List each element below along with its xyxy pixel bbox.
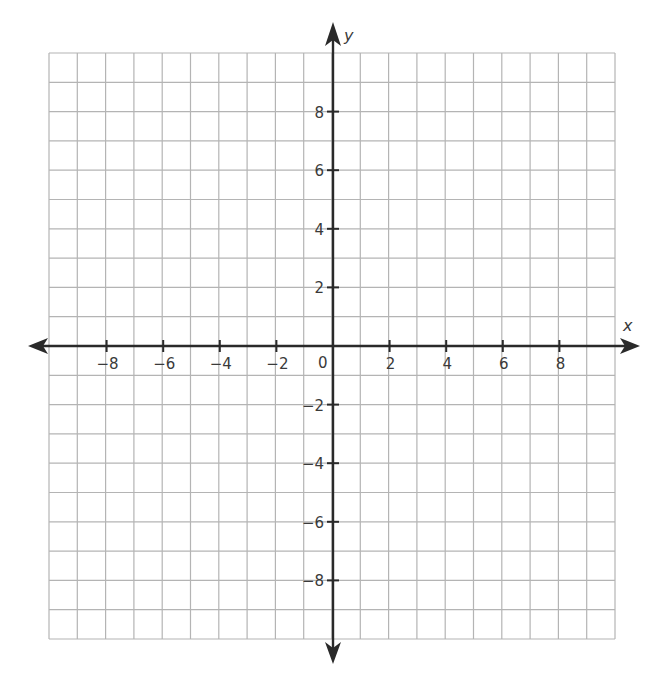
origin-label: 0 [318, 354, 328, 372]
x-tick-label: 8 [556, 355, 566, 373]
x-tick-label: 2 [386, 355, 396, 373]
y-tick-label: 2 [314, 279, 324, 297]
axes [28, 22, 640, 664]
y-tick-label: −6 [302, 514, 324, 532]
y-tick-label: −2 [302, 397, 324, 415]
x-tick-label: −8 [97, 355, 119, 373]
y-tick-label: 8 [314, 104, 324, 122]
coordinate-plane: −8−6−4−224688642−2−4−6−8 x y 0 [0, 0, 664, 683]
x-axis-label: x [622, 316, 633, 335]
y-tick-label: 4 [314, 221, 324, 239]
y-axis-label: y [343, 26, 354, 45]
x-tick-label: −2 [266, 355, 288, 373]
x-tick-label: −6 [153, 355, 175, 373]
x-tick-label: −4 [210, 355, 232, 373]
y-tick-label: −4 [302, 455, 324, 473]
x-tick-label: 4 [442, 355, 452, 373]
x-tick-label: 6 [499, 355, 509, 373]
y-tick-label: 6 [314, 162, 324, 180]
y-tick-label: −8 [302, 572, 324, 590]
